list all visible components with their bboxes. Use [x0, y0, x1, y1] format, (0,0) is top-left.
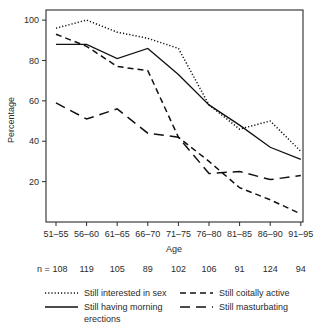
series-line [56, 20, 301, 151]
series-line [56, 34, 301, 214]
x-axis-tick-labels: 51–5556–6061–6566–7071–7576–8081–8586–90… [43, 229, 313, 239]
sample-size-value: 124 [263, 264, 278, 274]
sample-size-value: 91 [235, 264, 245, 274]
x-axis-tick-label: 66–70 [135, 229, 160, 239]
chart-legend: Still interested in sexStill coitally ac… [45, 288, 290, 324]
sample-size-value: 108 [52, 264, 67, 274]
sample-size-row: n =108119105891021069112494 [37, 264, 306, 274]
sample-size-value: 106 [201, 264, 216, 274]
sample-size-value: 102 [171, 264, 186, 274]
series-line [56, 103, 301, 180]
legend-label-continuation: erections [84, 314, 121, 324]
sample-size-value: 105 [110, 264, 125, 274]
sample-size-value: 119 [79, 264, 93, 274]
x-axis-tick-label: 86–90 [258, 229, 283, 239]
x-axis-tick-label: 71–75 [166, 229, 191, 239]
x-axis-tick-label: 91–95 [288, 229, 313, 239]
legend-label: Still having morning [84, 302, 163, 312]
y-axis-title: Percentage [6, 97, 16, 143]
series-line [56, 44, 301, 159]
x-axis-title: Age [166, 244, 182, 254]
y-axis-tick-label: 80 [29, 56, 39, 66]
x-axis-tick-label: 76–80 [196, 229, 221, 239]
percentage-by-age-line-chart: Percentage 20406080100 51–5556–6061–6566… [0, 0, 314, 332]
y-axis-tick-label: 40 [29, 136, 39, 146]
series-lines [56, 20, 301, 214]
plot-frame [46, 10, 303, 222]
y-axis-tick-label: 100 [24, 15, 39, 25]
legend-label: Still coitally active [219, 288, 290, 298]
sample-size-value: 89 [143, 264, 153, 274]
legend-label: Still interested in sex [84, 288, 167, 298]
x-axis-tick-label: 61–65 [105, 229, 130, 239]
sample-size-prefix: n = [37, 264, 50, 274]
x-axis [56, 222, 301, 226]
x-axis-tick-label: 51–55 [43, 229, 68, 239]
x-axis-tick-label: 56–60 [74, 229, 99, 239]
y-axis-tick-label: 20 [29, 177, 39, 187]
sample-size-value: 94 [296, 264, 306, 274]
y-axis-tick-label: 60 [29, 96, 39, 106]
chart-figure: Percentage 20406080100 51–5556–6061–6566… [0, 0, 314, 332]
x-axis-tick-label: 81–85 [227, 229, 252, 239]
y-axis: 20406080100 [24, 15, 46, 187]
legend-label: Still masturbating [219, 302, 288, 312]
